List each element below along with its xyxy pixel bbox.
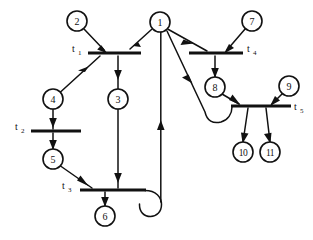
place-5[interactable]: 5 xyxy=(43,149,63,169)
place-2-label: 2 xyxy=(75,16,80,27)
transition-label-layer: t 1 t 2 t 3 t 4 t 5 xyxy=(15,43,304,194)
transition-label-t2-sub: 2 xyxy=(21,127,25,135)
arc-layer xyxy=(49,29,283,217)
place-4[interactable]: 4 xyxy=(43,89,63,109)
arc-place7-to-t4 xyxy=(224,29,246,54)
arc-t1-to-place3 xyxy=(114,56,122,89)
transition-label-t3-sub: 3 xyxy=(68,186,72,194)
arc-t4-to-place8 xyxy=(211,56,219,78)
place-9[interactable]: 9 xyxy=(279,76,299,96)
place-6[interactable]: 6 xyxy=(95,206,115,226)
place-10[interactable]: 10 xyxy=(233,142,253,162)
transition-label-t3-base: t xyxy=(62,180,65,191)
arc-place1-to-t1 xyxy=(130,30,152,50)
transition-label-t1: t 1 xyxy=(72,43,82,57)
place-11[interactable]: 11 xyxy=(260,142,280,162)
arc-t2-to-place5 xyxy=(49,133,57,150)
arc-place8-to-t5 xyxy=(222,94,241,105)
arc-place9-to-t5 xyxy=(270,93,283,106)
place-8-label: 8 xyxy=(213,82,218,93)
petri-net-canvas: t 1 t 2 t 3 t 4 t 5 1 xyxy=(0,0,313,240)
place-7[interactable]: 7 xyxy=(242,11,262,31)
place-10-label: 10 xyxy=(239,148,248,158)
place-3[interactable]: 3 xyxy=(108,89,128,109)
place-1-label: 1 xyxy=(158,17,163,28)
place-11-label: 11 xyxy=(266,148,275,158)
transition-label-t5-base: t xyxy=(294,101,297,112)
place-7-label: 7 xyxy=(250,16,255,27)
arc-place2-to-t1 xyxy=(85,30,108,54)
arc-t5-to-place11 xyxy=(264,108,272,144)
place-5-label: 5 xyxy=(51,154,56,165)
transition-label-t4: t 4 xyxy=(247,43,257,57)
petri-net-diagram: t 1 t 2 t 3 t 4 t 5 1 xyxy=(0,0,313,240)
arc-place4-to-t2 xyxy=(49,109,57,129)
transition-label-t4-base: t xyxy=(247,43,250,54)
arc-t3-to-place6 xyxy=(101,192,109,207)
transition-label-t4-sub: 4 xyxy=(253,49,257,57)
transition-label-t1-base: t xyxy=(72,43,75,54)
arc-place5-to-t3 xyxy=(61,166,93,188)
transition-label-t5-sub: 5 xyxy=(300,107,304,115)
place-6-label: 6 xyxy=(103,211,108,222)
transition-label-t1-sub: 1 xyxy=(78,49,82,57)
transition-label-t2-base: t xyxy=(15,121,18,132)
place-9-label: 9 xyxy=(287,81,292,92)
arc-t1-to-place4 xyxy=(61,56,101,92)
place-1[interactable]: 1 xyxy=(150,12,170,32)
place-8[interactable]: 8 xyxy=(205,77,225,97)
transition-label-t5: t 5 xyxy=(294,101,304,115)
transition-label-t2: t 2 xyxy=(15,121,25,135)
arc-place3-to-t3 xyxy=(114,109,122,188)
place-4-label: 4 xyxy=(51,94,56,105)
place-2[interactable]: 2 xyxy=(67,11,87,31)
transition-label-t3: t 3 xyxy=(62,180,72,194)
arc-place1-to-t5-curve xyxy=(167,31,232,123)
arc-t5-to-place10 xyxy=(241,108,249,144)
place-layer: 1 2 3 4 5 6 xyxy=(43,11,299,226)
place-3-label: 3 xyxy=(116,94,121,105)
